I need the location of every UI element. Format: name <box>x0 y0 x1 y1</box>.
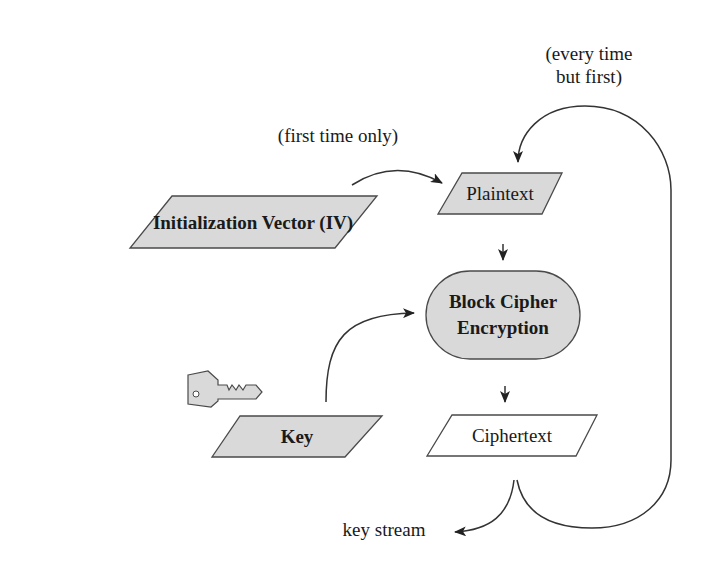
plaintext-label: Plaintext <box>466 183 534 205</box>
every-time-label-line2: but first) <box>556 66 622 88</box>
block-cipher-shape <box>426 271 580 359</box>
key-icon <box>188 371 262 407</box>
first-time-only-label: (first time only) <box>278 125 398 147</box>
block-cipher-label-line1: Block Cipher <box>449 291 557 313</box>
key-label: Key <box>281 426 314 448</box>
ciphertext-to-keystream-arrow <box>455 480 514 532</box>
block-cipher-label-line2: Encryption <box>457 317 549 339</box>
key-to-cipher-arrow <box>326 313 414 402</box>
iv-to-plaintext-arrow <box>352 170 442 185</box>
key-stream-label: key stream <box>343 519 426 541</box>
every-time-label-line1: (every time <box>545 43 632 65</box>
ciphertext-label: Ciphertext <box>472 425 552 447</box>
iv-label: Initialization Vector (IV) <box>153 212 353 234</box>
